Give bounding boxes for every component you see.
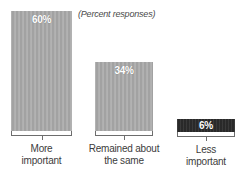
bracket-more-important (11, 135, 72, 141)
category-label-line2: important (166, 156, 246, 168)
category-label-line2: the same (84, 155, 164, 167)
bracket-tick-right (234, 132, 235, 137)
bracket-less-important (177, 136, 235, 142)
bracket-tick-right (71, 131, 72, 136)
bar-chart: (Percent responses) 60% More important 3… (0, 0, 246, 183)
bracket-tick-center (206, 136, 207, 141)
bracket-tick-center (124, 135, 125, 140)
bracket-tick-center (42, 135, 43, 140)
bar-remained-about-the-same: 34% (95, 62, 153, 131)
category-label-line2: important (1, 155, 82, 167)
bar-less-important: 6% (177, 119, 235, 132)
bracket-tick-left (95, 131, 96, 136)
bar-value-label-less-important: 6% (177, 120, 235, 131)
category-label-line1: More (31, 143, 53, 154)
category-label-less-important: Less important (166, 144, 246, 168)
category-label-line1: Less (196, 144, 216, 155)
chart-annotation: (Percent responses) (78, 9, 155, 20)
category-label-remained-about-the-same: Remained about the same (84, 143, 164, 167)
bracket-tick-right (152, 131, 153, 136)
category-label-line1: Remained about (89, 143, 160, 154)
bar-more-important: 60% (11, 11, 72, 131)
bar-value-label-more-important: 60% (11, 14, 72, 25)
bracket-remained-about-the-same (95, 135, 153, 141)
bracket-tick-left (11, 131, 12, 136)
bar-value-label-remained-about-the-same: 34% (95, 65, 153, 76)
bracket-tick-left (177, 132, 178, 137)
category-label-more-important: More important (1, 143, 82, 167)
